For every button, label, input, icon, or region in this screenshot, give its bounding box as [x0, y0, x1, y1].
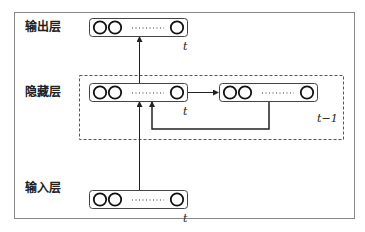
input-time-label: t — [183, 212, 188, 225]
output-time-label: t — [183, 40, 188, 53]
hidden-layer-label: 隐藏层 — [25, 84, 61, 99]
output-node-group — [90, 19, 188, 37]
output-layer-label: 输出层 — [25, 19, 61, 34]
input-node-group — [90, 191, 188, 209]
hidden-node-group-t-minus-1 — [220, 84, 318, 102]
input-layer-label: 输入层 — [25, 180, 61, 195]
hidden-time-label: t — [183, 105, 188, 118]
hidden-node-group-t — [90, 84, 188, 102]
feedback-loop-edge — [152, 101, 269, 129]
hidden-prev-time-label: t−1 — [317, 112, 338, 125]
rnn-diagram: 输出层 隐藏层 输入层 t t t−1 t — [0, 0, 365, 232]
